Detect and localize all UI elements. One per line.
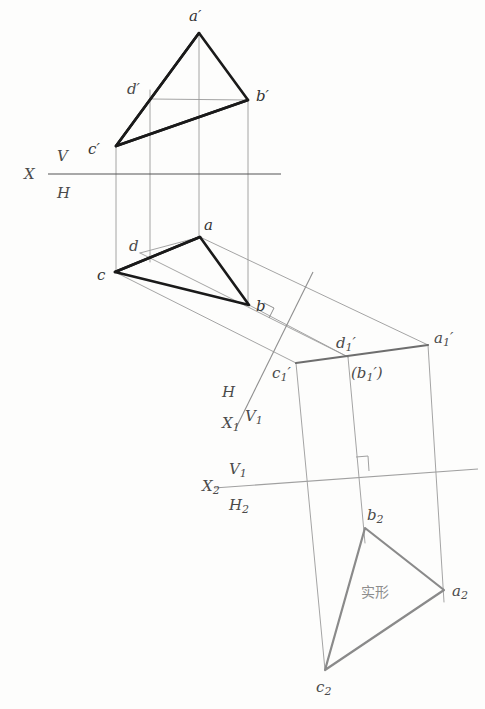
label-axis-x1: X1 (221, 414, 240, 434)
label-axis-h-upper-x1: H (221, 383, 236, 401)
label-axis-v1-upper-x2: V1 (229, 460, 247, 480)
label-a-prime: a′ (189, 7, 202, 25)
v1-edge-view-line (296, 345, 428, 363)
annotation-true-shape: 实形 (361, 584, 389, 600)
label-c: c (97, 266, 106, 284)
label-b1-prime: (b1′) (351, 364, 383, 384)
label-d: d (129, 237, 139, 255)
label-a: a (204, 216, 213, 234)
label-axis-x: X (23, 165, 36, 183)
projector-c1-to-c2 (296, 363, 325, 670)
v1-line-c1-a1 (296, 345, 428, 363)
label-b2: b2 (367, 506, 384, 526)
label-axis-v1-lower-x1: V1 (245, 407, 263, 427)
label-axis-v-upper: V (57, 147, 70, 165)
h-edge-a-d (115, 237, 200, 272)
projector-a1-to-a2 (428, 345, 444, 602)
label-axis-h-lower: H (56, 184, 71, 202)
label-a1-prime: a1′ (434, 329, 454, 349)
label-axis-x2: X2 (201, 477, 220, 497)
label-c1-prime: c1′ (272, 364, 291, 384)
v-projection-labels: a′ b′ c′ d′ (88, 7, 270, 158)
label-b: b (256, 297, 266, 315)
label-c-prime: c′ (88, 140, 100, 158)
projector-b1-to-b2 (348, 357, 365, 543)
projectors-to-v1 (115, 237, 428, 363)
axis-x2-group (214, 456, 478, 488)
v1-projection-labels: a1′ d1′ (b1′) c1′ (272, 329, 454, 384)
axis-x2-labels: X2 V1 H2 (201, 460, 249, 516)
label-d-prime: d′ (127, 80, 141, 98)
v-edge-c-prime-b-prime (116, 100, 248, 146)
axis-x1-labels: X1 H V1 (221, 383, 263, 434)
axis-x2-line (214, 469, 478, 488)
tie-line-d-b-prime (150, 99, 248, 100)
label-d1-prime: d1′ (336, 334, 357, 354)
projector-a-to-a1 (200, 237, 428, 345)
drawing-sheet: a′ b′ c′ d′ a b c d a1′ d1′ (0, 0, 485, 709)
label-axis-h2-lower-x2: H2 (228, 496, 249, 516)
h2-projection-labels: a2 b2 c2 实形 (316, 506, 468, 698)
label-b-prime: b′ (256, 87, 270, 105)
h-projection-labels: a b c d (97, 216, 266, 315)
label-a2: a2 (452, 582, 468, 602)
descriptive-geometry-drawing: a′ b′ c′ d′ a b c d a1′ d1′ (0, 0, 485, 709)
label-c2: c2 (316, 678, 331, 698)
